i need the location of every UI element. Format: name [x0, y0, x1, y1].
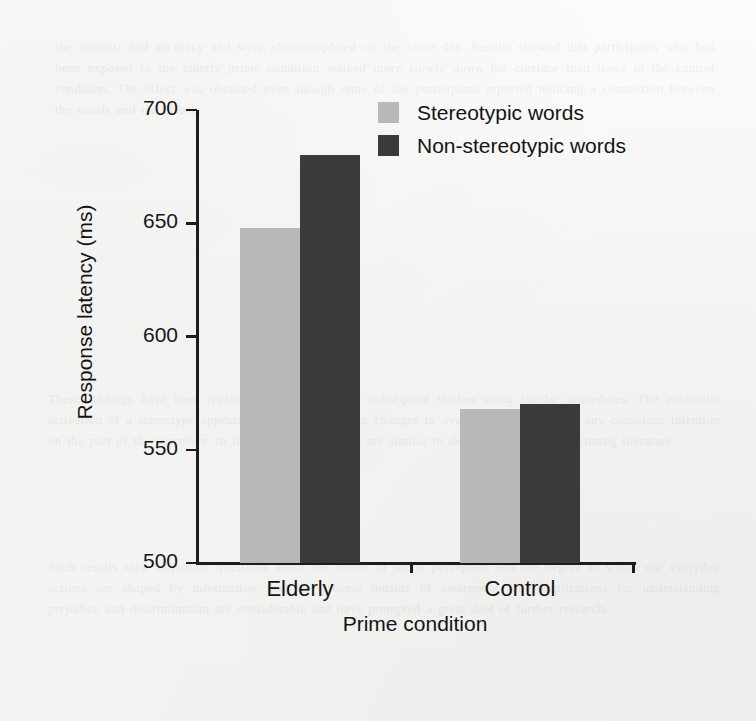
- bar-elderly-non-stereotypic-words: [300, 155, 360, 563]
- y-axis-tick-label: 550: [116, 436, 178, 460]
- legend-swatch-icon: [378, 102, 399, 123]
- legend-item: Non-stereotypic words: [378, 129, 626, 162]
- x-axis-tick: [632, 562, 635, 573]
- chart-legend: Stereotypic wordsNon-stereotypic words: [378, 96, 626, 162]
- y-axis-tick-label: 700: [116, 96, 178, 120]
- y-axis-tick-label-wrap: 700: [108, 96, 178, 122]
- legend-label: Stereotypic words: [417, 101, 584, 125]
- bar-control-stereotypic-words: [460, 409, 520, 563]
- plot-area: [196, 110, 634, 563]
- x-axis-label-control: Control: [440, 576, 600, 602]
- legend-label: Non-stereotypic words: [417, 134, 626, 158]
- legend-item: Stereotypic words: [378, 96, 626, 129]
- y-axis-tick-label-wrap: 550: [108, 436, 178, 462]
- y-axis-title: Response latency (ms): [73, 167, 97, 457]
- y-axis-tick-label-wrap: 650: [108, 209, 178, 235]
- bar-control-non-stereotypic-words: [520, 404, 580, 563]
- y-axis-tick-label: 500: [116, 549, 178, 573]
- y-axis-tick-label-wrap: 600: [108, 323, 178, 349]
- bar-chart-figure: 500550600650700 ElderlyControl Prime con…: [0, 0, 756, 721]
- x-axis-tick: [410, 562, 413, 573]
- y-axis-tick-label-wrap: 500: [108, 549, 178, 575]
- y-axis-tick-label: 600: [116, 323, 178, 347]
- y-axis-tick-label: 650: [116, 209, 178, 233]
- bar-elderly-stereotypic-words: [240, 228, 300, 563]
- x-axis-label-elderly: Elderly: [220, 576, 380, 602]
- x-axis-title: Prime condition: [196, 612, 634, 636]
- legend-swatch-icon: [378, 135, 399, 156]
